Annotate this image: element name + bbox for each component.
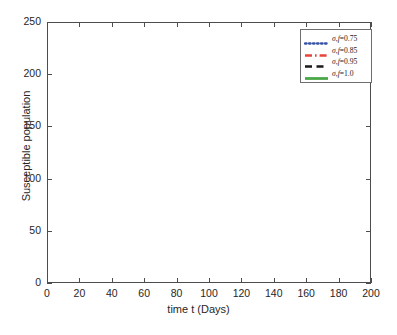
legend-label: σ,f=0.85	[332, 46, 357, 55]
x-tick	[339, 278, 340, 283]
legend-item-3: σ,f=1.0	[304, 68, 368, 80]
y-tick	[47, 283, 52, 284]
legend: σ,f=0.75σ,f=0.85σ,f=0.95σ,f=1.0	[300, 29, 372, 83]
x-tick-top	[177, 22, 178, 27]
figure: 0204060801001201401601802000501001502002…	[0, 0, 397, 335]
legend-label: σ,f=1.0	[332, 69, 354, 78]
y-tick-right	[366, 179, 371, 180]
y-tick-right	[366, 126, 371, 127]
x-tick	[274, 278, 275, 283]
x-tick	[209, 278, 210, 283]
x-tick-top	[371, 22, 372, 27]
x-tick-top	[112, 22, 113, 27]
legend-line-sample	[304, 46, 329, 55]
x-tick	[371, 278, 372, 283]
legend-item-0: σ,f=0.75	[304, 33, 368, 45]
legend-label: σ,f=0.95	[332, 57, 357, 66]
x-tick	[144, 278, 145, 283]
y-tick	[47, 74, 52, 75]
y-tick	[47, 179, 52, 180]
x-tick	[177, 278, 178, 283]
y-tick-right	[366, 283, 371, 284]
x-tick-top	[339, 22, 340, 27]
y-axis-title: Susceptible population	[20, 36, 32, 256]
y-tick	[47, 22, 52, 23]
x-tick-top	[241, 22, 242, 27]
legend-item-2: σ,f=0.95	[304, 56, 368, 68]
x-tick	[241, 278, 242, 283]
legend-line-sample	[304, 69, 329, 78]
y-tick-right	[366, 22, 371, 23]
x-tick-top	[209, 22, 210, 27]
legend-line-sample	[304, 34, 329, 43]
legend-label: σ,f=0.75	[332, 34, 357, 43]
y-tick	[47, 231, 52, 232]
x-tick-top	[144, 22, 145, 27]
legend-line-sample	[304, 57, 329, 66]
x-tick-label: 200	[351, 287, 391, 299]
y-tick-label: 0	[7, 276, 41, 288]
x-tick-top	[79, 22, 80, 27]
y-tick-label: 250	[7, 15, 41, 27]
x-tick	[79, 278, 80, 283]
y-tick-right	[366, 231, 371, 232]
x-tick-top	[274, 22, 275, 27]
x-axis-title: time t (Days)	[0, 303, 397, 315]
x-tick	[306, 278, 307, 283]
x-tick	[112, 278, 113, 283]
legend-item-1: σ,f=0.85	[304, 45, 368, 57]
x-tick-top	[306, 22, 307, 27]
y-tick	[47, 126, 52, 127]
